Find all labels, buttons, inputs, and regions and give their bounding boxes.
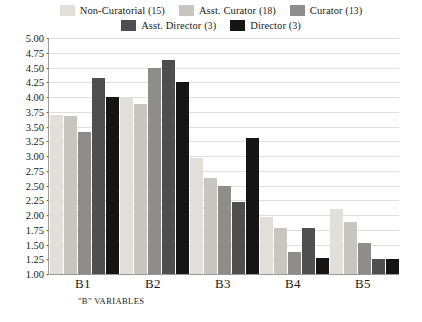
bar-group: [49, 38, 119, 274]
x-axis-title: "B" VARIABLES: [78, 296, 144, 306]
y-tick-label: 3.75: [26, 106, 44, 117]
bar[interactable]: [372, 259, 385, 274]
bars: [49, 38, 119, 274]
legend-label-non-curatorial: Non-Curatorial (15): [80, 5, 165, 16]
bar[interactable]: [358, 243, 371, 274]
legend-row-1: Non-Curatorial (15) Asst. Curator (18) C…: [0, 0, 422, 16]
y-tick-label: 1.75: [26, 224, 44, 235]
y-tick-label: 1.25: [26, 254, 44, 265]
x-tick-label: B4: [258, 276, 328, 292]
y-tick-label: 3.00: [26, 151, 44, 162]
x-tick-label: B2: [118, 276, 188, 292]
x-tick-label: B5: [328, 276, 398, 292]
bar[interactable]: [134, 104, 147, 274]
bar[interactable]: [64, 116, 77, 274]
bar[interactable]: [176, 82, 189, 274]
x-tick-label: B3: [188, 276, 258, 292]
legend-swatch-non-curatorial: [60, 5, 75, 16]
bar[interactable]: [246, 138, 259, 274]
legend-row-2: Asst. Director (3) Director (3): [0, 16, 422, 31]
bar-group: [329, 38, 399, 274]
bar[interactable]: [344, 222, 357, 274]
bar[interactable]: [316, 258, 329, 274]
bar[interactable]: [386, 259, 399, 274]
bar[interactable]: [148, 68, 161, 275]
bar[interactable]: [302, 228, 315, 274]
bar[interactable]: [106, 97, 119, 274]
bar[interactable]: [92, 78, 105, 274]
y-tick-label: 2.50: [26, 180, 44, 191]
y-tick-label: 3.25: [26, 136, 44, 147]
bar-group: [259, 38, 329, 274]
x-axis-labels: B1B2B3B4B5: [48, 276, 398, 292]
bar[interactable]: [288, 252, 301, 274]
legend-item-curator[interactable]: Curator (13): [290, 5, 362, 16]
chart-legend: Non-Curatorial (15) Asst. Curator (18) C…: [0, 0, 422, 31]
y-tick-label: 2.00: [26, 210, 44, 221]
y-tick-label: 5.00: [26, 33, 44, 44]
bar[interactable]: [78, 132, 91, 274]
bars: [119, 38, 189, 274]
legend-label-director: Director (3): [250, 20, 301, 31]
plot-area: 5.00·4.75·4.50·4.25·4.00·3.75·3.50·3.25·…: [48, 38, 399, 275]
legend-item-asst-director[interactable]: Asst. Director (3): [121, 20, 216, 31]
y-tick-label: 3.50: [26, 121, 44, 132]
legend-swatch-curator: [290, 5, 305, 16]
legend-item-director[interactable]: Director (3): [230, 20, 301, 31]
legend-item-asst-curator[interactable]: Asst. Curator (18): [179, 5, 276, 16]
bar[interactable]: [190, 158, 203, 274]
legend-label-curator: Curator (13): [310, 5, 362, 16]
bars: [189, 38, 259, 274]
y-tick-label: 2.75: [26, 165, 44, 176]
bar[interactable]: [204, 178, 217, 274]
legend-swatch-asst-director: [121, 20, 136, 31]
bar[interactable]: [274, 228, 287, 274]
y-tick-label: 4.25: [26, 77, 44, 88]
y-tick-label: 1.00: [26, 269, 44, 280]
bar[interactable]: [120, 97, 133, 274]
legend-swatch-asst-curator: [179, 5, 194, 16]
bar-group: [189, 38, 259, 274]
bar[interactable]: [162, 60, 175, 274]
legend-label-asst-curator: Asst. Curator (18): [199, 5, 276, 16]
y-tick-label: 4.00: [26, 92, 44, 103]
y-tick-label: 1.50: [26, 239, 44, 250]
bar[interactable]: [50, 115, 63, 274]
y-tick-label: 4.75: [26, 47, 44, 58]
bar-groups: [49, 38, 399, 274]
bar-group: [119, 38, 189, 274]
y-tick-label: 2.25: [26, 195, 44, 206]
legend-label-asst-director: Asst. Director (3): [141, 20, 216, 31]
bar[interactable]: [260, 217, 273, 274]
legend-item-non-curatorial[interactable]: Non-Curatorial (15): [60, 5, 165, 16]
bars: [259, 38, 329, 274]
bar[interactable]: [218, 186, 231, 275]
bar[interactable]: [232, 202, 245, 274]
y-tick-label: 4.50: [26, 62, 44, 73]
chart-container: Non-Curatorial (15) Asst. Curator (18) C…: [0, 0, 422, 322]
bar[interactable]: [330, 209, 343, 274]
bars: [329, 38, 399, 274]
legend-swatch-director: [230, 20, 245, 31]
x-tick-label: B1: [48, 276, 118, 292]
